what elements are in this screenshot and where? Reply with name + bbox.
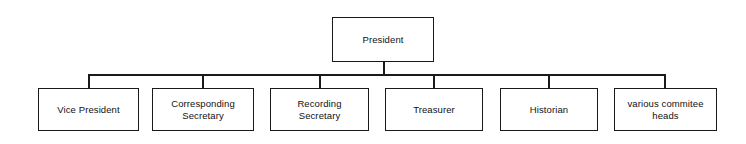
org-node-recording-secretary[interactable]: Recording Secretary	[270, 88, 369, 131]
org-node-label-recording-secretary: Recording Secretary	[293, 98, 345, 122]
connector-horizontal-bus	[89, 74, 665, 76]
org-node-president[interactable]: President	[332, 17, 434, 62]
org-node-various-committee-heads[interactable]: various commitee heads	[614, 88, 717, 131]
connector-bus-to-historian	[548, 74, 550, 89]
org-node-historian[interactable]: Historian	[500, 88, 598, 131]
org-node-label-president: President	[358, 34, 407, 46]
connector-bus-to-various-committee-heads	[664, 74, 666, 89]
org-node-vice-president[interactable]: Vice President	[38, 88, 139, 131]
connector-bus-to-corresponding-secretary	[202, 74, 204, 89]
org-node-corresponding-secretary[interactable]: Corresponding Secretary	[152, 88, 254, 131]
org-node-label-treasurer: Treasurer	[409, 104, 459, 116]
org-node-treasurer[interactable]: Treasurer	[385, 88, 483, 131]
org-node-label-various-committee-heads: various commitee heads	[623, 98, 707, 122]
connector-bus-to-treasurer	[433, 74, 435, 89]
connector-bus-to-vice-president	[88, 74, 90, 89]
org-node-label-historian: Historian	[526, 104, 572, 116]
org-node-label-vice-president: Vice President	[53, 104, 123, 116]
connector-bus-to-recording-secretary	[319, 74, 321, 89]
org-node-label-corresponding-secretary: Corresponding Secretary	[167, 98, 239, 122]
org-chart: President Vice President Corresponding S…	[0, 0, 746, 144]
